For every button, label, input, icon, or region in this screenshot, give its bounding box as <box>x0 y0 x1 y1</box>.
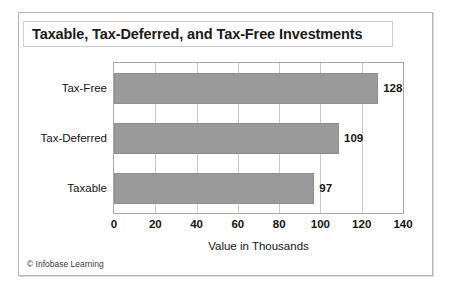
x-tick-label: 80 <box>273 218 286 230</box>
chart-figure-frame: Taxable, Tax-Deferred, and Tax-Free Inve… <box>18 12 433 276</box>
bar-tax-deferred <box>114 123 339 154</box>
bar-band: 128Tax-Free <box>114 63 403 113</box>
copyright-notice: © Infobase Learning <box>27 259 104 269</box>
bar-band: 97Taxable <box>114 163 403 213</box>
chart-title-box: Taxable, Tax-Deferred, and Tax-Free Inve… <box>23 21 393 47</box>
x-tick-label: 100 <box>311 218 330 230</box>
category-label-tax-deferred: Tax-Deferred <box>41 132 107 144</box>
bar-value-label: 128 <box>378 82 402 94</box>
category-label-taxable: Taxable <box>67 182 107 194</box>
bar-taxable <box>114 173 314 204</box>
bar-tax-free <box>114 73 378 104</box>
category-label-tax-free: Tax-Free <box>62 82 107 94</box>
x-tick-label: 60 <box>231 218 244 230</box>
bar-value-label: 97 <box>314 182 332 194</box>
x-axis-title: Value in Thousands <box>113 240 404 252</box>
x-tick-label: 40 <box>190 218 203 230</box>
chart-title: Taxable, Tax-Deferred, and Tax-Free Inve… <box>32 26 363 42</box>
bar-value-label: 109 <box>339 132 363 144</box>
x-tick-label: 120 <box>352 218 371 230</box>
x-tick-label: 0 <box>111 218 117 230</box>
x-tick-label: 140 <box>393 218 412 230</box>
x-tick-label: 20 <box>149 218 162 230</box>
bar-band: 109Tax-Deferred <box>114 113 403 163</box>
plot-area: 97Taxable109Tax-Deferred128Tax-Free02040… <box>113 62 404 214</box>
